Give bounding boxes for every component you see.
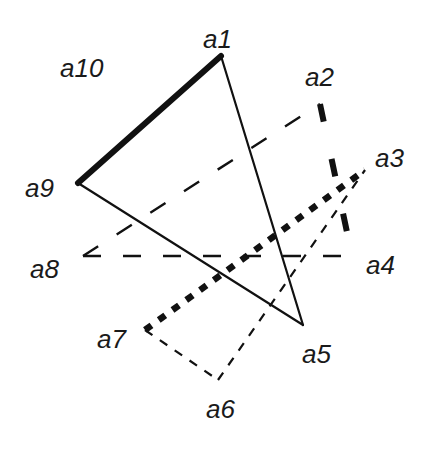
node-label-a3: a3 [375, 143, 404, 173]
node-label-a8: a8 [30, 254, 59, 284]
edge-a7-a6 [145, 330, 218, 380]
node-label-a9: a9 [25, 173, 54, 203]
edge-a6-a3 [218, 170, 365, 380]
node-label-a1: a1 [203, 24, 232, 54]
node-label-a6: a6 [206, 394, 235, 424]
node-label-a7: a7 [97, 324, 127, 354]
edge-a1-a5 [221, 56, 303, 325]
node-label-a4: a4 [366, 250, 395, 280]
graph-diagram: a1a2a3a4a5a6a7a8a9a10 [0, 0, 426, 449]
edge-a8-a2 [83, 104, 320, 256]
node-label-a10: a10 [60, 53, 104, 83]
edge-a9-a5 [78, 183, 303, 325]
edge-a2-a4 [320, 104, 352, 256]
edge-a7-a3 [145, 170, 365, 330]
node-label-a5: a5 [302, 339, 331, 369]
node-label-a2: a2 [305, 62, 334, 92]
